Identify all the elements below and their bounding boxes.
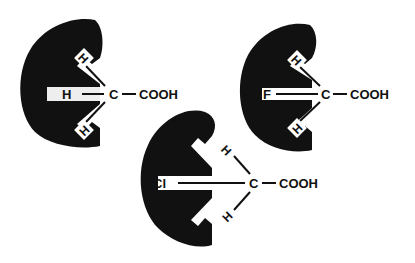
carbon-label: C: [249, 176, 259, 191]
substituent-label: Cl: [153, 176, 166, 191]
group-label: COOH: [139, 87, 178, 102]
carbon-label: C: [109, 87, 119, 102]
panel-acetic-acid: H C COOH H H: [20, 19, 178, 147]
enzyme-blob: [240, 24, 316, 152]
panel-fluoroacetic-acid: F C COOH H H: [240, 24, 389, 152]
hydrogen-label: H: [220, 209, 236, 225]
hydrogen-label: H: [218, 143, 234, 159]
group-label: COOH: [350, 87, 389, 102]
enzyme-substrate-diagram: H C COOH H H F C COOH H H: [0, 0, 415, 263]
group-label: COOH: [279, 176, 318, 191]
substituent-label: F: [263, 87, 271, 102]
substituent-label: H: [62, 87, 71, 102]
carbon-label: C: [321, 87, 331, 102]
